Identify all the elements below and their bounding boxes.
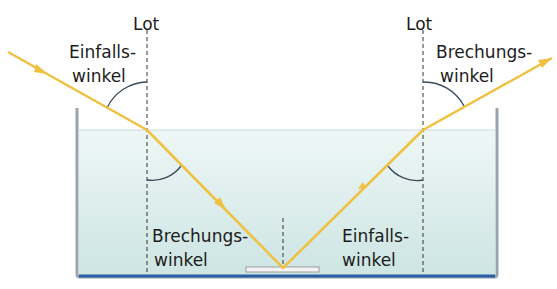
label-incidence-bottom-2: winkel — [342, 250, 396, 271]
water — [79, 130, 495, 275]
label-refraction-bottom-2: winkel — [154, 250, 208, 271]
label-incidence-top-1: Einfalls- — [69, 42, 136, 63]
label-refraction-top-1: Brechungs- — [436, 42, 532, 63]
arrow-icon — [538, 58, 552, 68]
arrow-icon — [34, 64, 48, 74]
label-lot-left: Lot — [133, 14, 159, 35]
label-incidence-top-2: winkel — [72, 66, 126, 87]
label-refraction-top-2: winkel — [440, 66, 494, 87]
label-refraction-bottom-1: Brechungs- — [152, 226, 248, 247]
label-incidence-bottom-1: Einfalls- — [342, 226, 409, 247]
label-lot-right: Lot — [406, 14, 432, 35]
